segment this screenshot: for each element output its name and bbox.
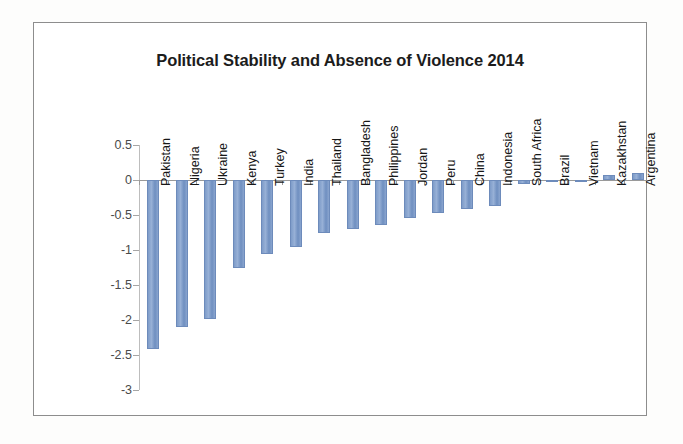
y-tick <box>133 390 139 391</box>
category-label-south-africa: South Africa <box>530 119 544 186</box>
plot-area: PakistanNigeriaUkraineKenyaTurkeyIndiaTh… <box>139 145 652 390</box>
category-tick <box>139 180 140 185</box>
category-label-peru: Peru <box>444 160 458 186</box>
y-tick <box>133 355 139 356</box>
category-label-nigeria: Nigeria <box>188 146 202 186</box>
bar-brazil <box>546 180 558 182</box>
y-tick-label: -0.5 <box>88 208 132 222</box>
category-label-bangladesh: Bangladesh <box>359 120 373 186</box>
chart-frame: Political Stability and Absence of Viole… <box>33 22 647 416</box>
y-tick-label: -2 <box>88 313 132 327</box>
category-label-pakistan: Pakistan <box>159 138 173 186</box>
bar-thailand <box>318 180 330 233</box>
bar-argentina <box>632 173 644 180</box>
y-tick <box>133 250 139 251</box>
y-tick-label: 0 <box>88 173 132 187</box>
bar-bangladesh <box>347 180 359 229</box>
category-label-jordan: Jordan <box>416 148 430 186</box>
bar-south-africa <box>518 180 530 184</box>
bar-nigeria <box>176 180 188 327</box>
y-axis-tick-labels: 0.50-0.5-1-1.5-2-2.5-3 <box>86 145 132 390</box>
category-label-philippines: Philippines <box>387 126 401 186</box>
bar-kenya <box>233 180 245 268</box>
bar-philippines <box>375 180 387 225</box>
bar-peru <box>432 180 444 213</box>
category-label-indonesia: Indonesia <box>501 132 515 186</box>
bar-india <box>290 180 302 247</box>
category-label-ukraine: Ukraine <box>216 143 230 186</box>
bar-kazakhstan <box>603 175 615 180</box>
bar-vietnam <box>575 180 587 182</box>
category-label-argentina: Argentina <box>644 132 658 186</box>
bar-pakistan <box>147 180 159 349</box>
y-tick <box>133 320 139 321</box>
y-tick <box>133 215 139 216</box>
category-label-india: India <box>302 159 316 186</box>
y-tick <box>133 145 139 146</box>
category-label-vietnam: Vietnam <box>587 140 601 186</box>
bar-china <box>461 180 473 209</box>
category-label-kenya: Kenya <box>245 151 259 186</box>
y-tick-label: -2.5 <box>88 348 132 362</box>
category-label-china: China <box>473 153 487 186</box>
bar-ukraine <box>204 180 216 319</box>
y-tick-label: -1 <box>88 243 132 257</box>
y-tick-label: 0.5 <box>88 138 132 152</box>
category-label-thailand: Thailand <box>330 138 344 186</box>
category-label-turkey: Turkey <box>273 148 287 186</box>
y-tick <box>133 285 139 286</box>
bar-jordan <box>404 180 416 218</box>
y-tick-label: -3 <box>88 383 132 397</box>
category-label-brazil: Brazil <box>558 155 572 186</box>
y-tick-label: -1.5 <box>88 278 132 292</box>
category-label-kazakhstan: Kazakhstan <box>615 121 629 186</box>
bar-turkey <box>261 180 273 254</box>
chart-title: Political Stability and Absence of Viole… <box>34 51 646 70</box>
bar-indonesia <box>489 180 501 206</box>
screenshot-page: Political Stability and Absence of Viole… <box>0 0 683 444</box>
